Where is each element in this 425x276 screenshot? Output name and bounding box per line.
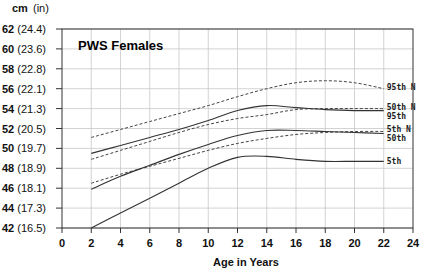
- x-tick-label: 2: [88, 237, 94, 249]
- y-tick-label: 50 (19.7): [2, 142, 46, 154]
- series-label-50th: 50th: [387, 134, 406, 143]
- series-label-95th-n: 95th N: [387, 83, 416, 92]
- x-axis: 024681012141618202224: [59, 228, 420, 249]
- series-label-5th: 5th: [387, 157, 402, 166]
- x-axis-title: Age in Years: [213, 256, 279, 268]
- y-tick-label: 62 (24.4): [2, 23, 46, 35]
- y-tick-label: 42 (16.5): [2, 222, 46, 234]
- y-tick-label: 44 (17.3): [2, 202, 46, 214]
- x-tick-label: 10: [202, 237, 214, 249]
- unit-header-cm: cm: [12, 2, 28, 14]
- x-tick-label: 16: [290, 237, 302, 249]
- y-axis: 62 (24.4)60 (23.6)58 (22.8)56 (22.1)54 (…: [2, 23, 62, 234]
- y-tick-label: 56 (22.1): [2, 83, 46, 95]
- x-tick-label: 4: [117, 237, 124, 249]
- x-tick-label: 18: [319, 237, 331, 249]
- x-tick-label: 0: [59, 237, 65, 249]
- y-tick-label: 58 (22.8): [2, 63, 46, 75]
- y-tick-label: 46 (18.1): [2, 182, 46, 194]
- x-tick-label: 20: [348, 237, 360, 249]
- x-tick-label: 14: [261, 237, 274, 249]
- unit-header-in: (in): [33, 2, 49, 14]
- x-tick-label: 22: [378, 237, 390, 249]
- series-label-5th-n: 5th N: [387, 125, 411, 134]
- chart: 62 (24.4)60 (23.6)58 (22.8)56 (22.1)54 (…: [0, 0, 425, 276]
- y-tick-label: 60 (23.6): [2, 43, 46, 55]
- series-labels: 95th N50th N95th5th N50th5th: [387, 83, 416, 167]
- x-tick-label: 12: [231, 237, 243, 249]
- x-tick-label: 8: [176, 237, 182, 249]
- y-tick-label: 48 (18.9): [2, 162, 46, 174]
- y-tick-label: 54 (21.3): [2, 103, 46, 115]
- grid-lines: [62, 29, 413, 228]
- series-label-50th-n: 50th N: [387, 103, 416, 112]
- y-tick-label: 52 (20.5): [2, 123, 46, 135]
- chart-title: PWS Females: [78, 38, 163, 53]
- x-tick-label: 6: [147, 237, 153, 249]
- x-tick-label: 24: [407, 237, 420, 249]
- series-label-95th: 95th: [387, 112, 406, 121]
